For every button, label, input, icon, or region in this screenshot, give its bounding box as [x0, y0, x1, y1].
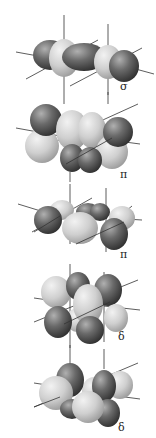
- pi-orbital-panel-1: π: [0, 92, 156, 182]
- delta-orbital-panel-1: δ: [0, 262, 156, 348]
- delta-orbital-panel-2: δ: [0, 345, 156, 438]
- pi-orbital-panel-2: π: [0, 182, 156, 262]
- delta-orbital-diagram-1: [0, 262, 156, 348]
- sigma-orbital-diagram: [0, 0, 156, 95]
- orbital-symbol-label: δ: [118, 330, 125, 343]
- pi-orbital-diagram-1: [0, 92, 156, 182]
- orbital-symbol-label: π: [120, 248, 127, 261]
- pi-orbital-diagram-2: [0, 182, 156, 262]
- orbital-symbol-label: π: [120, 168, 127, 181]
- sigma-orbital-panel: σ: [0, 0, 156, 95]
- delta-orbital-diagram-2: [0, 345, 156, 438]
- orbital-symbol-label: δ: [118, 421, 125, 434]
